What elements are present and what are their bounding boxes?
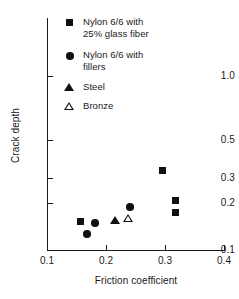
scatter-chart: 1.00.50.30.20.1 0.10.20.30.4 Friction co… [0,0,239,299]
y-tick-mark [48,250,53,251]
legend-marker-square-filled-icon [63,16,79,28]
x-tick-label: 0.3 [147,256,183,266]
legend-marker-triangle-filled-icon [63,81,79,93]
data-point-square-filled [172,209,179,216]
legend-entry: Nylon 6/6 with 25% glass fiber [63,16,193,39]
data-point-circle-filled [126,203,134,211]
x-tick-mark [224,245,225,250]
legend-label: Nylon 6/6 with 25% glass fiber [79,16,149,39]
legend-marker-triangle-open-icon [63,100,79,112]
x-tick-label: 0.4 [206,256,239,266]
data-point-circle-filled [91,219,99,227]
x-tick-label: 0.2 [88,256,124,266]
legend-label: Steel [79,81,105,93]
data-point-circle-filled [83,230,91,238]
x-axis-label: Friction coefficient [47,275,225,286]
y-axis-label: Crack depth [10,91,21,181]
data-point-square-filled [159,167,166,174]
legend-entry: Bronze [63,100,193,112]
data-point-square-filled [77,218,84,225]
data-point-square-filled [172,197,179,204]
data-point-triangle-filled [110,216,120,224]
chart-legend: Nylon 6/6 with 25% glass fiberNylon 6/6 … [63,16,193,112]
x-tick-label: 0.1 [29,256,65,266]
legend-entry: Steel [63,81,193,93]
legend-marker-circle-filled-icon [63,49,79,61]
legend-label: Nylon 6/6 with fillers [79,49,143,72]
data-point-triangle-open [123,214,133,222]
legend-label: Bronze [79,100,113,112]
legend-entry: Nylon 6/6 with fillers [63,49,193,72]
